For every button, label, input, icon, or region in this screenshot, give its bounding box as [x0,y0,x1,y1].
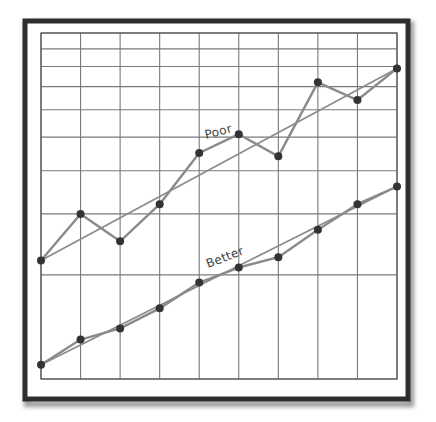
data-point-better [156,304,164,312]
data-point-poor [195,149,203,157]
chart: Poor Better [0,0,436,422]
data-point-poor [77,210,85,218]
data-point-poor [37,257,45,265]
data-point-better [274,253,282,261]
data-point-poor [156,200,164,208]
data-point-poor [314,78,322,86]
data-point-poor [393,64,401,72]
data-point-better [37,361,45,369]
data-point-better [195,279,203,287]
data-point-better [353,200,361,208]
data-point-better [235,264,243,272]
data-point-better [116,324,124,332]
data-point-poor [274,152,282,160]
data-point-poor [235,130,243,138]
data-point-better [77,336,85,344]
data-point-better [393,183,401,191]
data-point-poor [116,237,124,245]
data-point-better [314,226,322,234]
data-point-poor [353,96,361,104]
